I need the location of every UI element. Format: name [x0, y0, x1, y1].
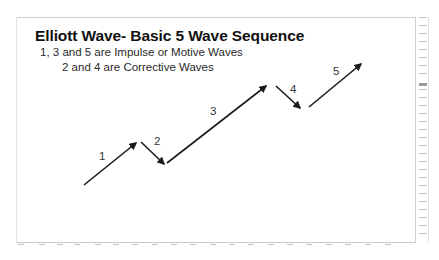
- wave-3-label: 3: [210, 105, 216, 117]
- wave-4-label: 4: [290, 83, 296, 95]
- wave-3-arrow: [167, 86, 266, 163]
- wave-1-arrow: [84, 143, 136, 185]
- wave-arrows: [0, 0, 439, 260]
- wave-2-arrow: [141, 142, 164, 164]
- wave-5-label: 5: [333, 65, 339, 77]
- wave-2-label: 2: [154, 135, 160, 147]
- wave-1-label: 1: [99, 150, 105, 162]
